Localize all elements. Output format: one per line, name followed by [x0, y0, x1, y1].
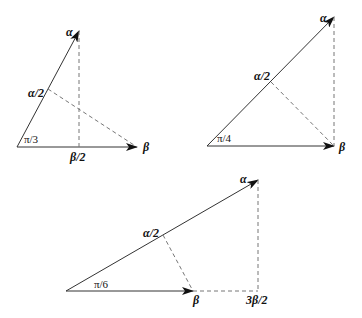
alpha-label: α: [320, 11, 327, 25]
beta-label: β: [192, 293, 200, 307]
alpha-vector: [207, 17, 334, 146]
half-alpha-label: α/2: [143, 226, 159, 240]
panel-pi-over-3: α β α/2 π/3 β/2: [17, 25, 150, 164]
alpha-label: α: [240, 172, 247, 186]
beta-projection-line: [271, 82, 334, 146]
alpha-label: α: [66, 25, 73, 39]
projection-label: 3β/2: [245, 293, 267, 307]
diagram-svg: α β α/2 π/3 β/2 α β α/2 π/4 α β α/2 π/6 …: [0, 0, 362, 318]
panel-pi-over-4: α β α/2 π/4: [207, 11, 346, 154]
angle-label: π/3: [24, 133, 39, 145]
angle-label: π/4: [217, 132, 232, 144]
root-system-diagram: α β α/2 π/3 β/2 α β α/2 π/4 α β α/2 π/6 …: [0, 0, 362, 318]
beta-projection-line: [163, 235, 193, 291]
half-alpha-label: α/2: [254, 69, 270, 83]
beta-label: β: [338, 140, 346, 154]
panel-pi-over-6: α β α/2 π/6 3β/2: [66, 172, 267, 307]
alpha-vector: [66, 180, 258, 291]
beta-label: β: [142, 140, 150, 154]
angle-label: π/6: [94, 278, 109, 290]
projection-label: β/2: [69, 150, 85, 164]
half-alpha-label: α/2: [28, 86, 44, 100]
beta-projection-line: [48, 89, 137, 147]
